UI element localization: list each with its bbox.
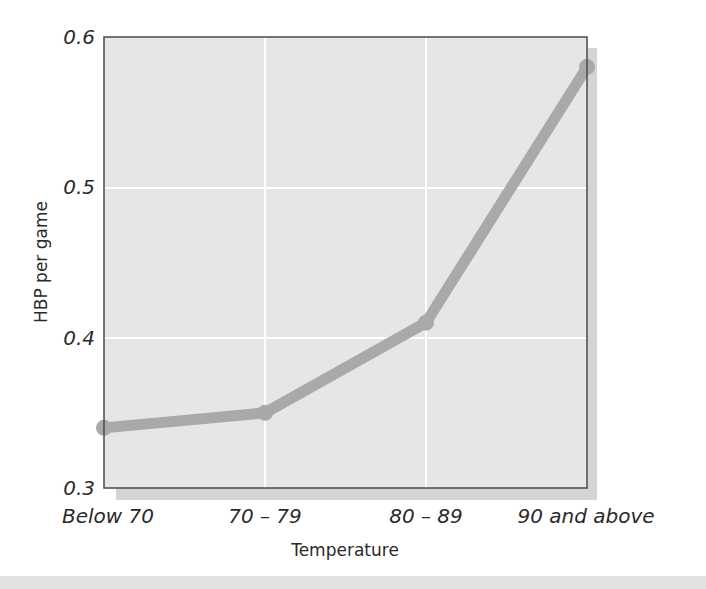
x-tick-label: 80 – 89 (389, 504, 463, 528)
x-tick-label: 90 and above (517, 504, 654, 528)
y-tick-label: 0.3 (63, 476, 95, 500)
data-point (418, 315, 434, 331)
x-tick-label: Below 70 (62, 504, 154, 528)
y-tick-label: 0.4 (63, 326, 95, 350)
x-axis-ticks: Below 7070 – 7980 – 8990 and above (62, 504, 655, 528)
y-tick-label: 0.6 (63, 25, 95, 49)
bottom-band (0, 576, 706, 589)
y-tick-label: 0.5 (63, 175, 95, 199)
line-chart: 0.30.40.50.6 Below 7070 – 7980 – 8990 an… (0, 0, 706, 589)
y-axis-title: HBP per game (31, 201, 51, 323)
data-point (257, 405, 273, 421)
y-axis-ticks: 0.30.40.50.6 (63, 25, 95, 500)
x-tick-label: 70 – 79 (228, 504, 302, 528)
x-axis-title: Temperature (290, 540, 399, 560)
